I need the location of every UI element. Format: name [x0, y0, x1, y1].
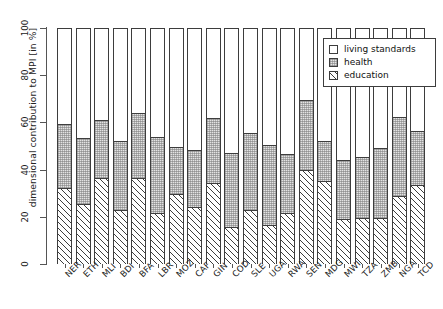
segment-education [300, 170, 313, 264]
legend-item-education[interactable]: education [329, 69, 430, 81]
bar-bfa[interactable] [131, 28, 146, 264]
y-tick [40, 122, 46, 123]
segment-education [114, 210, 127, 264]
y-tick-label: 60 [20, 109, 30, 135]
education-swatch-icon [329, 71, 338, 80]
bar-cod[interactable] [224, 28, 239, 264]
segment-education [58, 188, 71, 264]
segment-education [207, 183, 220, 264]
x-tick [381, 264, 382, 268]
bar-uga[interactable] [262, 28, 277, 264]
y-tick [40, 170, 46, 171]
legend-item-living-standards[interactable]: living standards [329, 43, 430, 55]
legend-label: health [344, 57, 373, 67]
x-tick [195, 264, 196, 268]
y-tick [40, 28, 46, 29]
x-tick [344, 264, 345, 268]
legend-label: living standards [344, 44, 416, 54]
x-tick [102, 264, 103, 268]
segment-education [170, 194, 183, 264]
bar-ner[interactable] [57, 28, 72, 264]
y-axis-line [46, 27, 47, 265]
y-tick-label: 80 [20, 62, 30, 88]
y-tick [40, 264, 46, 265]
bar-sen[interactable] [299, 28, 314, 264]
bar-moz[interactable] [169, 28, 184, 264]
segment-education [263, 225, 276, 264]
living-standards-swatch-icon [329, 45, 338, 54]
chart-figure: dimensional contribution to MPI [in %] 0… [0, 0, 443, 309]
bar-gin[interactable] [206, 28, 221, 264]
segment-education [244, 210, 257, 264]
x-tick [288, 264, 289, 268]
y-tick [40, 75, 46, 76]
segment-education [95, 178, 108, 264]
y-tick-label: 20 [20, 204, 30, 230]
bar-rwa[interactable] [280, 28, 295, 264]
segment-education [225, 227, 238, 264]
bar-mli[interactable] [94, 28, 109, 264]
x-tick [158, 264, 159, 268]
y-tick-label: 40 [20, 157, 30, 183]
segment-education [77, 204, 90, 264]
health-swatch-icon [329, 58, 338, 67]
chart-legend: living standards health education [323, 38, 436, 87]
segment-education [356, 218, 369, 264]
y-tick [40, 217, 46, 218]
segment-education [132, 178, 145, 264]
bar-caf[interactable] [187, 28, 202, 264]
bar-bdi[interactable] [113, 28, 128, 264]
x-tick [251, 264, 252, 268]
segment-education [318, 181, 331, 264]
y-tick-label: 0 [20, 251, 30, 277]
y-tick-label: 100 [20, 15, 30, 41]
segment-education [411, 185, 424, 264]
segment-education [281, 213, 294, 264]
x-tick [65, 264, 66, 268]
segment-education [151, 213, 164, 264]
segment-education [393, 196, 406, 264]
segment-education [374, 218, 387, 264]
legend-item-health[interactable]: health [329, 56, 430, 68]
bar-lbr[interactable] [150, 28, 165, 264]
bar-eth[interactable] [76, 28, 91, 264]
bar-sle[interactable] [243, 28, 258, 264]
segment-education [188, 207, 201, 264]
legend-label: education [344, 70, 389, 80]
